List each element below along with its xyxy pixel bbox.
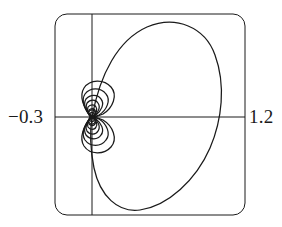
plot-frame — [55, 14, 245, 215]
curve-outer-cardioid — [91, 22, 222, 210]
figure-container: −0.3 1.2 — [0, 0, 282, 227]
singular-point — [90, 115, 95, 120]
x-axis-min-label: −0.3 — [8, 107, 43, 126]
x-axis-max-label: 1.2 — [249, 107, 273, 126]
